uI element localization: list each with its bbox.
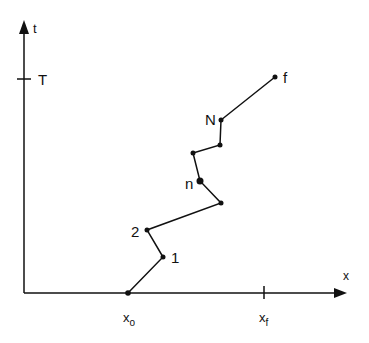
point-x0 [125, 290, 131, 296]
point-f-label: f [283, 70, 287, 85]
xf-label: xf [259, 311, 268, 328]
diagram: t T x xo xf 1 2 n N f [0, 0, 369, 343]
trajectory-path [128, 77, 275, 293]
point-2 [145, 228, 150, 233]
t-axis-arrowhead [19, 20, 29, 34]
point-n [197, 178, 204, 185]
point-f [273, 75, 278, 80]
point-n2 [218, 143, 223, 148]
x-axis-label: x [343, 270, 349, 282]
point-2-label: 2 [131, 224, 139, 239]
point-3 [219, 201, 224, 206]
diagram-canvas [0, 0, 369, 343]
point-1 [161, 255, 166, 260]
T-tick-label: T [38, 72, 47, 87]
x0-label-sub: o [130, 317, 136, 328]
point-n1 [191, 151, 196, 156]
point-N-label: N [205, 112, 216, 127]
t-axis-label: t [33, 22, 37, 35]
x-axis-arrowhead [334, 288, 347, 298]
x0-label: xo [123, 311, 135, 328]
point-n-label: n [185, 176, 193, 191]
xf-label-sub: f [266, 317, 269, 328]
point-N [219, 118, 224, 123]
point-1-label: 1 [171, 250, 179, 265]
